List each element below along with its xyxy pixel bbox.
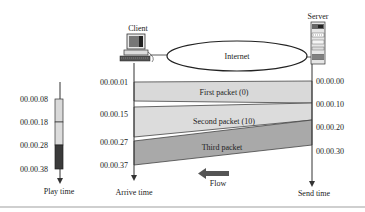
buffer-segment-first: [55, 99, 63, 122]
arrive-time-label: Arrive time: [115, 188, 153, 197]
send-time-label: Send time: [298, 189, 331, 198]
desktop-computer-icon: [120, 34, 153, 62]
send-tick-1: 00.00.10: [316, 100, 344, 109]
packet-label-first: First packet (0): [200, 88, 249, 97]
arrive-tick-0: 00.00.01: [100, 78, 128, 87]
play-tick-3: 00.00.38: [20, 165, 48, 174]
send-tick-3: 00.00.30: [316, 147, 344, 156]
buffer-segment-third: [55, 145, 63, 169]
packet-bands: First packet (0) Second packet (10) Thir…: [134, 81, 312, 165]
flow-label: Flow: [210, 179, 227, 188]
play-tick-1: 00.00.18: [20, 118, 48, 127]
server-node: Server: [308, 12, 329, 64]
send-tick-2: 00.00.20: [316, 123, 344, 132]
server-rack-icon: [311, 22, 325, 64]
client-label: Client: [128, 24, 148, 33]
play-time-label: Play time: [44, 187, 75, 196]
packet-label-second: Second packet (10): [193, 117, 255, 126]
play-tick-2: 00.00.28: [20, 141, 48, 150]
server-label: Server: [308, 12, 329, 21]
arrive-tick-1: 00.00.15: [100, 110, 128, 119]
internet-node: Internet: [150, 41, 312, 71]
play-time-axis: 00.00.08 00.00.18 00.00.28 00.00.38 Play…: [20, 82, 75, 196]
send-tick-0: 00.00.00: [316, 77, 344, 86]
buffer-segment-second: [55, 122, 63, 145]
arrive-tick-2: 00.00.27: [100, 138, 128, 147]
play-tick-0: 00.00.08: [20, 95, 48, 104]
internet-label: Internet: [225, 52, 251, 61]
client-node: Client: [120, 24, 153, 62]
streaming-timing-diagram: Client Internet Server: [0, 0, 365, 212]
flow-indicator: Flow: [198, 168, 229, 188]
packet-label-third: Third packet: [202, 143, 243, 152]
left-arrow-icon: [198, 168, 229, 179]
arrive-tick-3: 00.00.37: [100, 161, 128, 170]
bottom-divider: [0, 206, 365, 208]
